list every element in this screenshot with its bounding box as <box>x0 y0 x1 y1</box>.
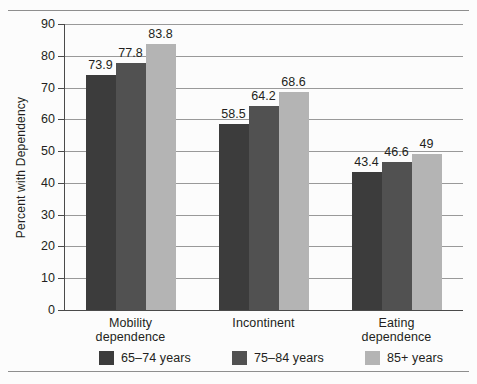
category-label-line: Eating <box>330 316 463 330</box>
y-tick-mark <box>58 246 64 247</box>
bar-value-label: 58.5 <box>221 107 246 121</box>
y-tick-mark <box>58 88 64 89</box>
y-tick-label: 20 <box>41 239 55 253</box>
legend-swatch <box>365 351 380 365</box>
y-tick-mark <box>58 310 64 311</box>
legend-label: 85+ years <box>387 351 443 365</box>
bar[interactable]: 68.6 <box>279 92 309 310</box>
y-tick-label: 50 <box>41 144 55 158</box>
y-tick-mark <box>58 119 64 120</box>
y-tick-label: 80 <box>41 49 55 63</box>
legend-label: 75–84 years <box>254 351 324 365</box>
bar-group: 73.977.883.8 <box>86 24 176 310</box>
bar[interactable]: 64.2 <box>249 106 279 310</box>
bar[interactable]: 77.8 <box>116 63 146 310</box>
legend-swatch <box>99 351 114 365</box>
bar-value-label: 83.8 <box>148 27 173 41</box>
bar-value-label: 46.6 <box>384 145 409 159</box>
y-tick-mark <box>58 56 64 57</box>
chart-legend: 65–74 years75–84 years85+ years <box>64 351 463 369</box>
y-tick-label: 90 <box>41 17 55 31</box>
category-label: Incontinent <box>197 316 330 330</box>
bar-group: 58.564.268.6 <box>219 24 309 310</box>
bar-value-label: 49 <box>419 137 433 151</box>
y-tick-label: 0 <box>48 303 55 317</box>
category-label-line: Incontinent <box>197 316 330 330</box>
bottom-divider-rule <box>8 371 469 372</box>
bar-value-label: 73.9 <box>88 58 113 72</box>
bar-value-label: 64.2 <box>251 89 276 103</box>
legend-swatch <box>232 351 247 365</box>
category-label-line: dependence <box>64 330 197 344</box>
bar-value-label: 43.4 <box>354 155 379 169</box>
top-divider-rule <box>8 10 469 11</box>
y-tick-label: 60 <box>41 112 55 126</box>
bar[interactable]: 46.6 <box>382 162 412 310</box>
y-axis-title: Percent with Dependency <box>14 24 30 311</box>
bar-group: 43.446.649 <box>352 24 442 310</box>
bar-value-label: 68.6 <box>281 75 306 89</box>
x-axis-line <box>64 310 463 311</box>
y-tick-mark <box>58 24 64 25</box>
category-label-line: Mobility <box>64 316 197 330</box>
category-label: Eatingdependence <box>330 316 463 344</box>
category-label-line: dependence <box>330 330 463 344</box>
y-tick-label: 70 <box>41 81 55 95</box>
y-tick-label: 30 <box>41 208 55 222</box>
chart-figure: Percent with Dependency 9080706050403020… <box>0 0 477 384</box>
legend-item[interactable]: 65–74 years <box>99 351 191 365</box>
y-tick-mark <box>58 151 64 152</box>
y-axis-line <box>64 24 65 311</box>
legend-item[interactable]: 85+ years <box>365 351 443 365</box>
category-label: Mobilitydependence <box>64 316 197 344</box>
legend-item[interactable]: 75–84 years <box>232 351 324 365</box>
bar[interactable]: 43.4 <box>352 172 382 310</box>
bar[interactable]: 49 <box>412 154 442 310</box>
bar-value-label: 77.8 <box>118 46 143 60</box>
y-tick-label: 40 <box>41 176 55 190</box>
y-tick-label: 10 <box>41 271 55 285</box>
y-tick-mark <box>58 215 64 216</box>
bar[interactable]: 58.5 <box>219 124 249 310</box>
plot-area: 9080706050403020100 73.977.883.858.564.2… <box>64 24 463 311</box>
y-tick-mark <box>58 183 64 184</box>
y-tick-mark <box>58 278 64 279</box>
legend-label: 65–74 years <box>121 351 191 365</box>
bar[interactable]: 83.8 <box>146 44 176 310</box>
bar[interactable]: 73.9 <box>86 75 116 310</box>
